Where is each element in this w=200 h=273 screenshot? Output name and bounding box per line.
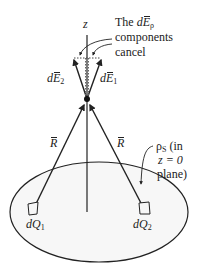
dq-symbol: dQ xyxy=(133,217,148,231)
dq1-label: dQ1 xyxy=(26,218,45,234)
r-label-left: R xyxy=(50,137,57,150)
r-symbol: R xyxy=(50,137,57,150)
cancel-annotation-line3: cancel xyxy=(115,46,146,59)
subscript: 2 xyxy=(60,77,64,86)
the-text: The xyxy=(115,15,137,29)
cancel-pointer-1 xyxy=(80,39,112,55)
de1-label: dE1 xyxy=(100,72,117,88)
de1-vector xyxy=(87,60,101,99)
subscript: 1 xyxy=(41,223,45,232)
cancel-pointer-2 xyxy=(93,44,112,55)
subscript: 1 xyxy=(113,77,117,86)
dq-symbol: dQ xyxy=(26,217,41,231)
de2-label: dE2 xyxy=(47,72,64,88)
surface-annotation-line3: plane) xyxy=(157,168,187,181)
surface-annotation-line2: z = 0 xyxy=(158,154,183,167)
e-vector-symbol: E xyxy=(53,72,60,85)
charge-element-1 xyxy=(28,202,38,215)
dq2-label: dQ2 xyxy=(133,218,152,234)
field-point xyxy=(84,96,90,102)
e-vector-symbol: E xyxy=(106,72,113,85)
in-text: (in xyxy=(166,139,182,153)
r-symbol: R xyxy=(117,137,124,150)
subscript: 2 xyxy=(148,223,152,232)
e-vector-symbol: E xyxy=(143,16,150,29)
cancel-annotation-line2: components xyxy=(115,31,173,44)
charge-element-2 xyxy=(139,202,150,214)
z-axis-label: z xyxy=(83,18,88,31)
r-label-right: R xyxy=(117,137,124,150)
rho-subscript: ρ xyxy=(150,21,154,30)
